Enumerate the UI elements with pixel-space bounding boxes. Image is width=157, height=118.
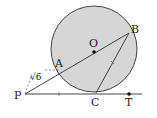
center-point-O xyxy=(92,50,96,54)
label-P: P xyxy=(14,89,22,102)
geometry-diagram: P A O B C T √6 xyxy=(0,0,157,118)
label-T: T xyxy=(125,96,133,109)
label-C: C xyxy=(91,96,99,109)
label-sqrt6: √6 xyxy=(30,72,42,82)
label-A: A xyxy=(54,57,64,70)
label-O: O xyxy=(89,37,98,50)
label-B: B xyxy=(131,23,139,36)
